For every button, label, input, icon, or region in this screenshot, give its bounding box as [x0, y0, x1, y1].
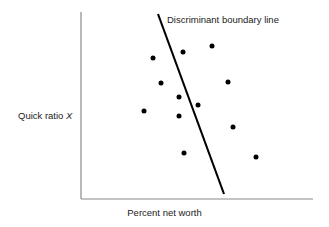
discriminant-analysis-figure: Quick ratio X Percent net worth Discrimi… [0, 0, 329, 227]
scatter-point [226, 80, 231, 85]
scatter-point [196, 103, 201, 108]
scatter-points [142, 44, 259, 160]
y-axis-label-text: Quick ratio [18, 110, 66, 121]
discriminant-boundary-line [158, 14, 224, 194]
y-axis-label: Quick ratio X [18, 110, 72, 122]
boundary-lines [158, 14, 224, 194]
scatter-point [182, 151, 187, 156]
scatter-point [151, 56, 156, 61]
scatter-point [231, 125, 236, 130]
discriminant-boundary-line-label: Discriminant boundary line [167, 14, 279, 26]
scatter-point [177, 114, 182, 119]
x-axis-label: Percent net worth [0, 207, 329, 219]
scatter-point [142, 109, 147, 114]
y-axis-variable: X [66, 110, 72, 121]
scatter-point [210, 44, 215, 49]
scatter-point [181, 50, 186, 55]
scatter-point [177, 95, 182, 100]
scatter-point [254, 155, 259, 160]
scatter-point [159, 81, 164, 86]
